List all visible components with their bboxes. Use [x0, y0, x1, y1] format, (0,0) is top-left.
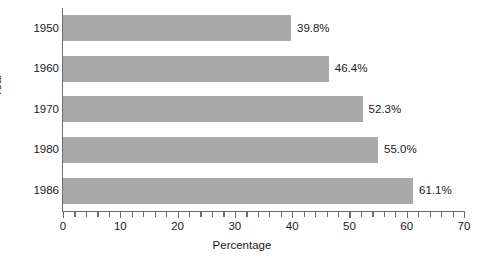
x-axis-minor-tick — [132, 212, 133, 217]
bar-row: 61.1% — [63, 170, 464, 211]
bar — [63, 15, 291, 41]
y-tick-label-1986: 1986 — [0, 185, 59, 197]
x-axis-minor-tick — [258, 212, 259, 217]
bar-row: 52.3% — [63, 89, 464, 130]
x-tick-label-60: 60 — [387, 221, 427, 233]
x-axis-minor-tick — [109, 212, 110, 217]
x-axis-minor-tick — [86, 212, 87, 217]
x-tick-label-40: 40 — [272, 221, 312, 233]
x-axis-minor-tick — [74, 212, 75, 217]
y-axis-line — [62, 8, 63, 212]
x-axis-minor-tick — [246, 212, 247, 217]
bar-row: 46.4% — [63, 49, 464, 90]
x-tick-label-0: 0 — [43, 221, 83, 233]
x-axis-major-tick — [407, 212, 408, 218]
bar — [63, 137, 378, 163]
x-tick-label-10: 10 — [100, 221, 140, 233]
x-axis-major-tick — [120, 212, 121, 218]
bar — [63, 56, 329, 82]
x-axis-major-tick — [178, 212, 179, 218]
x-axis-minor-tick — [361, 212, 362, 217]
bar-chart: 39.8%46.4%52.3%55.0%61.1% Year Percentag… — [0, 0, 484, 271]
x-axis-major-tick — [292, 212, 293, 218]
x-tick-label-20: 20 — [158, 221, 198, 233]
x-axis-minor-tick — [189, 212, 190, 217]
x-axis-line — [62, 211, 465, 212]
x-axis-minor-tick — [97, 212, 98, 217]
x-axis-major-tick — [63, 212, 64, 218]
plot-area: 39.8%46.4%52.3%55.0%61.1% — [63, 8, 464, 211]
x-axis-minor-tick — [395, 212, 396, 217]
x-axis-minor-tick — [453, 212, 454, 217]
bar-value-label: 46.4% — [335, 63, 368, 75]
y-tick-label-1980: 1980 — [0, 144, 59, 156]
x-axis-minor-tick — [441, 212, 442, 217]
x-tick-label-50: 50 — [329, 221, 369, 233]
x-tick-label-70: 70 — [444, 221, 484, 233]
bar-row: 39.8% — [63, 8, 464, 49]
x-axis-major-tick — [349, 212, 350, 218]
bar-value-label: 52.3% — [369, 104, 402, 116]
x-axis-minor-tick — [418, 212, 419, 217]
bar — [63, 178, 413, 204]
x-axis-title: Percentage — [0, 240, 484, 252]
y-axis-title: Year — [0, 74, 4, 97]
bar-value-label: 55.0% — [384, 144, 417, 156]
x-axis-minor-tick — [155, 212, 156, 217]
x-axis-minor-tick — [315, 212, 316, 217]
x-axis-minor-tick — [223, 212, 224, 217]
x-axis-minor-tick — [327, 212, 328, 217]
x-axis-minor-tick — [372, 212, 373, 217]
x-axis-minor-tick — [212, 212, 213, 217]
x-axis-minor-tick — [338, 212, 339, 217]
bar-row: 55.0% — [63, 130, 464, 171]
bar — [63, 96, 363, 122]
bar-value-label: 39.8% — [297, 23, 330, 35]
x-axis-minor-tick — [166, 212, 167, 217]
y-tick-label-1970: 1970 — [0, 104, 59, 116]
x-axis-minor-tick — [430, 212, 431, 217]
x-tick-label-30: 30 — [215, 221, 255, 233]
x-axis-minor-tick — [269, 212, 270, 217]
x-axis-minor-tick — [281, 212, 282, 217]
y-tick-label-1950: 1950 — [0, 23, 59, 35]
x-axis-minor-tick — [304, 212, 305, 217]
bar-value-label: 61.1% — [419, 185, 452, 197]
x-axis-minor-tick — [143, 212, 144, 217]
x-axis-major-tick — [235, 212, 236, 218]
x-axis-major-tick — [464, 212, 465, 218]
x-axis-minor-tick — [384, 212, 385, 217]
x-axis-minor-tick — [200, 212, 201, 217]
y-tick-label-1960: 1960 — [0, 63, 59, 75]
